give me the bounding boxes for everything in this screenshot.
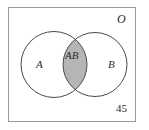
outside-region-count: 45 [116, 103, 127, 114]
set-a-label: A [36, 59, 43, 70]
venn-diagram-figure: O A B AB + 45 [0, 0, 149, 130]
universal-set-label: O [117, 13, 126, 25]
intersection-label: AB [65, 50, 78, 61]
intersection-inner-mark: + [70, 67, 80, 76]
set-b-label: B [108, 59, 115, 70]
